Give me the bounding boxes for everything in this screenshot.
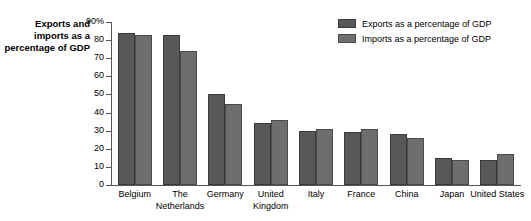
bar-group [208, 22, 242, 185]
y-tick-label-40: 40 [78, 108, 104, 117]
y-tick-label-wrap-10: 10 [78, 162, 104, 171]
y-tick-label-60: 60 [78, 71, 104, 80]
y-tick-mark-50 [106, 94, 111, 95]
y-tick-label-80: 80 [78, 35, 104, 44]
bar [497, 154, 514, 185]
bar [452, 160, 469, 185]
bar [316, 129, 333, 185]
y-tick-mark-10 [106, 167, 111, 168]
bar [118, 33, 135, 185]
legend-label-imports: Imports as a percentage of GDP [362, 34, 491, 44]
bar [271, 120, 288, 185]
legend-label-exports: Exports as a percentage of GDP [362, 19, 492, 29]
y-tick-label-50: 50 [78, 89, 104, 98]
y-tick-label-wrap-0: 0 [78, 180, 104, 189]
y-tick-mark-80 [106, 40, 111, 41]
y-tick-label-wrap-40: 40 [78, 108, 104, 117]
legend-item-exports: Exports as a percentage of GDP [338, 17, 492, 30]
y-tick-mark-40 [106, 113, 111, 114]
legend-item-imports: Imports as a percentage of GDP [338, 32, 492, 45]
y-tick-label-wrap-20: 20 [78, 144, 104, 153]
bar [135, 35, 152, 185]
y-tick-mark-60 [106, 76, 111, 77]
bar [208, 94, 225, 185]
bar [299, 131, 316, 185]
bar [225, 104, 242, 186]
y-tick-mark-20 [106, 149, 111, 150]
chart-legend: Exports as a percentage of GDP Imports a… [338, 17, 492, 47]
x-axis-label: United States [469, 189, 526, 201]
y-tick-label-10: 10 [78, 162, 104, 171]
x-axis-line [111, 185, 521, 186]
bar [163, 35, 180, 185]
y-tick-label-20: 20 [78, 144, 104, 153]
legend-swatch-exports-icon [338, 19, 356, 28]
bar-group [118, 22, 152, 185]
y-tick-label-wrap-50: 50 [78, 89, 104, 98]
y-tick-label-wrap-80: 80 [78, 35, 104, 44]
bar-group [163, 22, 197, 185]
y-tick-mark-90 [106, 22, 111, 23]
bar [254, 123, 271, 185]
bar [361, 129, 378, 185]
bar-chart-figure: Exports and imports as a percentage of G… [0, 0, 531, 221]
y-tick-label-90: 90% [78, 17, 104, 26]
bar [344, 132, 361, 185]
bar [407, 138, 424, 185]
y-tick-label-wrap-70: 70 [78, 53, 104, 62]
bar [480, 160, 497, 185]
bar [390, 134, 407, 185]
y-tick-label-70: 70 [78, 53, 104, 62]
legend-swatch-imports-icon [338, 34, 356, 43]
y-tick-mark-70 [106, 58, 111, 59]
bar-group [299, 22, 333, 185]
y-tick-mark-0 [106, 185, 111, 186]
y-tick-label-wrap-90: 90% [78, 17, 104, 26]
bar [435, 158, 452, 185]
bar-group [254, 22, 288, 185]
y-tick-label-0: 0 [78, 180, 104, 189]
y-tick-mark-30 [106, 131, 111, 132]
y-tick-label-wrap-60: 60 [78, 71, 104, 80]
y-tick-label-30: 30 [78, 126, 104, 135]
bar [180, 51, 197, 185]
y-tick-label-wrap-30: 30 [78, 126, 104, 135]
